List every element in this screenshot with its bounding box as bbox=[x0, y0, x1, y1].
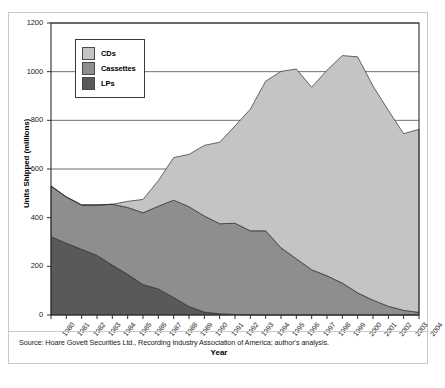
legend-swatch-icon bbox=[82, 47, 95, 60]
legend-swatch-icon bbox=[82, 62, 95, 75]
y-tick-label: 800 bbox=[9, 116, 43, 124]
x-axis-title: Year bbox=[9, 348, 429, 357]
y-tick-label: 0 bbox=[9, 311, 43, 319]
source-divider bbox=[9, 331, 429, 332]
y-tick-label: 600 bbox=[9, 165, 43, 173]
legend-item-label: LPs bbox=[101, 79, 114, 88]
legend-item: LPs bbox=[82, 77, 136, 90]
chart-legend: CDsCassettesLPs bbox=[75, 39, 145, 98]
chart-plot-area: Units Shipped (millions) 020040060080010… bbox=[9, 13, 429, 331]
stacked-area-chart bbox=[9, 13, 429, 331]
legend-item: CDs bbox=[82, 47, 136, 60]
legend-swatch-icon bbox=[82, 77, 95, 90]
x-tick-label: 2004 bbox=[429, 321, 445, 338]
y-axis-title: Units Shipped (millions) bbox=[22, 94, 31, 234]
legend-item: Cassettes bbox=[82, 62, 136, 75]
legend-item-label: CDs bbox=[101, 49, 116, 58]
y-tick-label: 200 bbox=[9, 262, 43, 270]
y-tick-label: 400 bbox=[9, 214, 43, 222]
source-note: Source: Hoare Govett Securities Ltd., Re… bbox=[19, 338, 419, 348]
y-tick-label: 1200 bbox=[9, 19, 43, 27]
y-tick-label: 1000 bbox=[9, 68, 43, 76]
figure-container: Units Shipped (millions) 020040060080010… bbox=[8, 12, 428, 364]
legend-item-label: Cassettes bbox=[101, 64, 136, 73]
